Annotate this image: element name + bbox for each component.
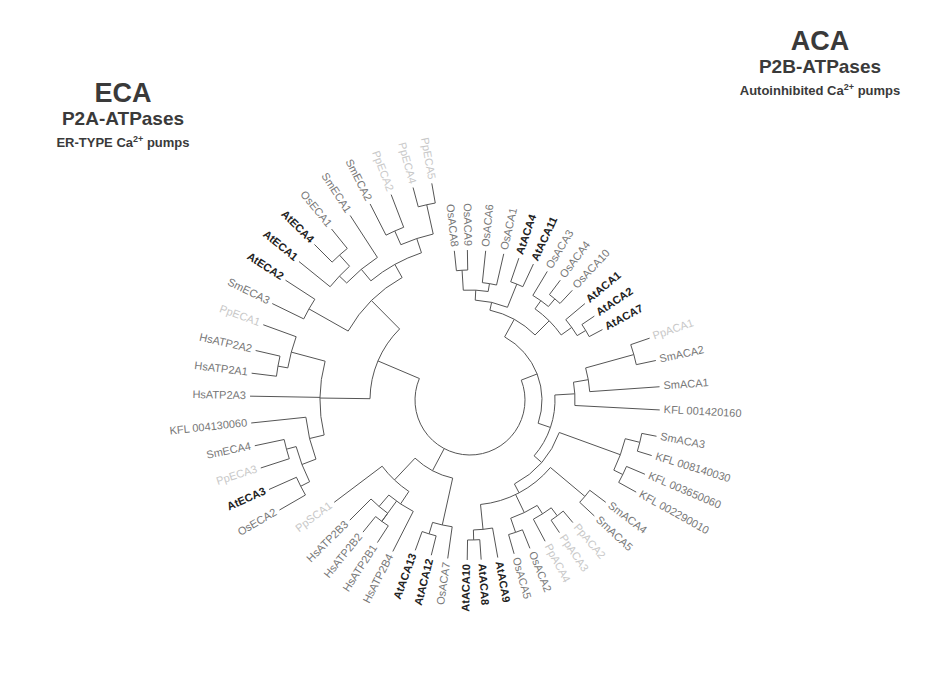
branch-line bbox=[497, 254, 504, 285]
branch-line bbox=[493, 528, 498, 558]
branch-line bbox=[395, 264, 402, 277]
leaf-label: OsACA6 bbox=[479, 204, 495, 248]
branch-line bbox=[538, 423, 550, 427]
branch-line bbox=[350, 499, 371, 520]
branch-line bbox=[548, 299, 554, 307]
leaf-label: PpECA2 bbox=[370, 149, 396, 193]
leaf-label: AtACA8 bbox=[477, 563, 492, 605]
branch-line bbox=[291, 352, 325, 361]
branch-line bbox=[551, 508, 557, 516]
branch-line bbox=[511, 258, 519, 282]
branch-line bbox=[431, 536, 436, 555]
branch-arc bbox=[505, 337, 542, 423]
branch-line bbox=[637, 451, 651, 455]
leaf-label: AtACA9 bbox=[494, 560, 513, 603]
leaf-label: SmECA3 bbox=[226, 276, 272, 307]
branch-line bbox=[589, 330, 602, 337]
branch-line bbox=[555, 394, 575, 395]
branch-line bbox=[361, 269, 371, 281]
branch-line bbox=[482, 251, 485, 283]
leaf-label: PpSCA1 bbox=[293, 499, 334, 534]
branch-line bbox=[636, 360, 656, 364]
leaf-label: AtECA1 bbox=[261, 228, 300, 263]
branch-line bbox=[535, 301, 541, 309]
branch-line bbox=[580, 502, 595, 516]
branch-line bbox=[642, 433, 657, 436]
branch-line bbox=[417, 239, 422, 253]
branch-line bbox=[522, 530, 529, 549]
branch-line bbox=[370, 204, 386, 235]
leaf-label: KFL 004130060 bbox=[169, 416, 248, 436]
branch-line bbox=[363, 517, 376, 533]
branch-line bbox=[251, 417, 306, 423]
branch-line bbox=[427, 205, 433, 234]
phylogenetic-tree: OsACA8OsACA9OsACA6OsACA1AtACA4AtACA11OsA… bbox=[0, 0, 926, 673]
leaf-label: SmACA1 bbox=[663, 376, 709, 391]
leaf-label: SmACA2 bbox=[658, 343, 705, 364]
branch-line bbox=[301, 482, 310, 487]
branch-line bbox=[310, 435, 325, 439]
branch-line bbox=[413, 187, 418, 206]
branch-line bbox=[507, 284, 516, 307]
branch-line bbox=[379, 495, 389, 506]
leaf-label: OsACA9 bbox=[462, 203, 475, 246]
branch-line bbox=[377, 526, 388, 543]
branch-line bbox=[614, 470, 623, 474]
leaf-label: PpECA1 bbox=[218, 302, 262, 328]
leaf-label: KFL 001420160 bbox=[663, 403, 741, 419]
branch-line bbox=[279, 495, 305, 510]
branch-line bbox=[350, 215, 377, 257]
branch-line bbox=[537, 505, 542, 513]
branch-line bbox=[631, 338, 650, 345]
branch-line bbox=[582, 316, 594, 324]
branch-line bbox=[432, 183, 435, 203]
branch-line bbox=[590, 490, 606, 502]
branch-line bbox=[626, 466, 644, 474]
branch-line bbox=[535, 321, 549, 335]
leaf-label: AtECA3 bbox=[225, 485, 267, 513]
branch-line bbox=[566, 304, 585, 320]
leaf-label: OsACA8 bbox=[445, 204, 461, 248]
branch-line bbox=[309, 309, 348, 331]
branch-line bbox=[286, 447, 296, 450]
branch-line bbox=[523, 264, 534, 287]
branch-line bbox=[382, 501, 397, 521]
branch-line bbox=[561, 327, 572, 335]
branch-line bbox=[490, 302, 492, 310]
branch-line bbox=[394, 458, 415, 480]
branch-line bbox=[302, 459, 316, 464]
branch-line bbox=[550, 467, 584, 496]
branch-line bbox=[505, 319, 515, 337]
branch-line bbox=[590, 387, 660, 392]
branch-line bbox=[560, 290, 572, 303]
leaf-label: PpECA3 bbox=[215, 462, 259, 486]
branch-line bbox=[549, 280, 560, 294]
branch-line bbox=[320, 398, 370, 399]
leaf-label: PpECA4 bbox=[396, 141, 419, 185]
branch-line bbox=[433, 449, 445, 471]
branch-line bbox=[514, 484, 519, 493]
leaf-label: AtACA12 bbox=[412, 557, 435, 606]
leaf-label: PpACA1 bbox=[651, 316, 695, 341]
branch-line bbox=[625, 439, 640, 443]
branch-line bbox=[391, 195, 404, 228]
branch-line bbox=[415, 532, 422, 551]
branch-line bbox=[462, 270, 463, 290]
branch-line bbox=[442, 478, 452, 525]
leaf-label: SmACA3 bbox=[659, 430, 706, 450]
branch-line bbox=[299, 262, 330, 287]
leaf-label: AtACA10 bbox=[459, 564, 472, 612]
branch-line bbox=[263, 325, 296, 337]
branch-line bbox=[256, 351, 280, 357]
branch-line bbox=[533, 519, 545, 541]
leaf-label: OsECA2 bbox=[235, 506, 278, 538]
branch-line bbox=[563, 511, 573, 522]
leaf-label: HsATP2A3 bbox=[192, 388, 246, 401]
branch-line bbox=[509, 535, 515, 554]
branch-line bbox=[255, 440, 284, 446]
branch-line bbox=[393, 511, 413, 551]
branch-line bbox=[480, 540, 481, 560]
branch-line bbox=[559, 432, 620, 454]
branch-line bbox=[551, 520, 559, 532]
branch-line bbox=[619, 482, 636, 492]
